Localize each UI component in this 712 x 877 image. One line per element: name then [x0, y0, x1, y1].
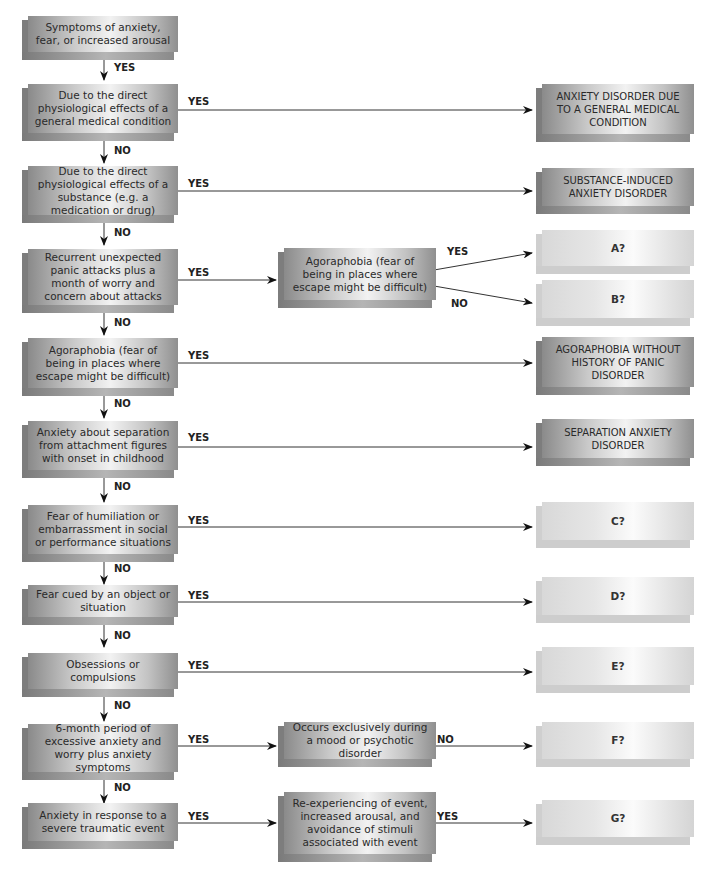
edge-label-yes: YES: [188, 178, 209, 189]
edge-label-yes: YES: [188, 660, 209, 671]
edge-label-yes: YES: [114, 62, 135, 73]
box-bottom: [536, 615, 690, 623]
box-bottom: [22, 617, 174, 625]
box-bottom: [22, 388, 174, 396]
outcome-text: E?: [542, 647, 694, 685]
outcome-text: D?: [542, 577, 694, 615]
outcome-separation-anxiety: SEPARATION ANXIETY DISORDER: [536, 419, 694, 466]
box-bottom: [22, 52, 174, 60]
decision-substance: Due to the direct physiological effects …: [22, 166, 178, 223]
decision-text: Fear cued by an object or situation: [28, 585, 178, 617]
outcome-d: D?: [536, 577, 694, 623]
outcome-text: SEPARATION ANXIETY DISORDER: [542, 419, 694, 458]
outcome-agoraphobia-no-panic: AGORAPHOBIA WITHOUT HISTORY OF PANIC DIS…: [536, 337, 694, 395]
box-bottom: [536, 759, 690, 767]
decision-text: Due to the direct physiological effects …: [28, 84, 178, 133]
box-bottom: [536, 266, 690, 274]
outcome-text: G?: [542, 800, 694, 837]
edge-label-no: NO: [114, 700, 131, 711]
decision-mood-psychotic: Occurs exclusively during a mood or psyc…: [278, 722, 436, 767]
edge-label-no: NO: [114, 782, 131, 793]
outcome-e: E?: [536, 647, 694, 693]
box-bottom: [278, 854, 432, 862]
edge-label-yes: YES: [188, 515, 209, 526]
decision-agoraphobia-with-panic: Agoraphobia (fear of being in places whe…: [278, 248, 436, 308]
box-bottom: [536, 837, 690, 845]
box-bottom: [22, 133, 174, 141]
decision-panic-attacks: Recurrent unexpected panic attacks plus …: [22, 249, 178, 313]
decision-text: Agoraphobia (fear of being in places whe…: [28, 338, 178, 388]
decision-text: Recurrent unexpected panic attacks plus …: [28, 249, 178, 305]
edge-label-no: NO: [114, 630, 131, 641]
outcome-text: AGORAPHOBIA WITHOUT HISTORY OF PANIC DIS…: [542, 337, 694, 387]
outcome-substance-induced: SUBSTANCE-INDUCED ANXIETY DISORDER: [536, 168, 694, 214]
decision-medical-condition: Due to the direct physiological effects …: [22, 84, 178, 141]
edge-label-yes: YES: [188, 350, 209, 361]
outcome-text: F?: [542, 722, 694, 759]
outcome-b: B?: [536, 280, 694, 326]
box-bottom: [278, 759, 432, 767]
outcome-medical-condition: ANXIETY DISORDER DUE TO A GENERAL MEDICA…: [536, 84, 694, 142]
decision-symptoms: Symptoms of anxiety, fear, or increased …: [22, 16, 178, 60]
edge-label-no: NO: [114, 563, 131, 574]
decision-6-month: 6-month period of excessive anxiety and …: [22, 724, 178, 780]
edge-label-yes: YES: [188, 590, 209, 601]
box-bottom: [22, 305, 174, 313]
box-bottom: [22, 841, 174, 849]
decision-text: Obsessions or compulsions: [28, 653, 178, 689]
box-bottom: [536, 134, 690, 142]
box-bottom: [536, 387, 690, 395]
edge-label-yes: YES: [188, 432, 209, 443]
edge-label-no: NO: [437, 734, 454, 745]
edge-label-yes: YES: [437, 811, 458, 822]
outcome-text: A?: [542, 230, 694, 266]
decision-text: Anxiety in response to a severe traumati…: [28, 803, 178, 841]
decision-humiliation: Fear of humiliation or embarrassment in …: [22, 505, 178, 562]
decision-separation: Anxiety about separation from attachment…: [22, 421, 178, 478]
decision-text: Due to the direct physiological effects …: [28, 166, 178, 215]
decision-agoraphobia: Agoraphobia (fear of being in places whe…: [22, 338, 178, 396]
decision-obsessions: Obsessions or compulsions: [22, 653, 178, 697]
edge-label-no: NO: [114, 481, 131, 492]
edge-label-no: NO: [451, 298, 468, 309]
outcome-text: ANXIETY DISORDER DUE TO A GENERAL MEDICA…: [542, 84, 694, 134]
box-bottom: [536, 540, 690, 548]
outcome-a: A?: [536, 230, 694, 274]
decision-text: Occurs exclusively during a mood or psyc…: [284, 722, 436, 759]
outcome-text: SUBSTANCE-INDUCED ANXIETY DISORDER: [542, 168, 694, 206]
outcome-text: C?: [542, 502, 694, 540]
edge-label-yes: YES: [447, 246, 468, 257]
box-bottom: [536, 458, 690, 466]
decision-text: Symptoms of anxiety, fear, or increased …: [28, 16, 178, 52]
decision-re-experiencing: Re-experiencing of event, increased arou…: [278, 792, 436, 862]
decision-text: Anxiety about separation from attachment…: [28, 421, 178, 470]
decision-text: Fear of humiliation or embarrassment in …: [28, 505, 178, 554]
box-bottom: [22, 554, 174, 562]
decision-text: 6-month period of excessive anxiety and …: [28, 724, 178, 772]
box-bottom: [22, 689, 174, 697]
outcome-c: C?: [536, 502, 694, 548]
edge-label-yes: YES: [188, 267, 209, 278]
box-bottom: [22, 470, 174, 478]
decision-text: Re-experiencing of event, increased arou…: [284, 792, 436, 854]
box-bottom: [536, 685, 690, 693]
decision-text: Agoraphobia (fear of being in places whe…: [284, 248, 436, 300]
edge-label-no: NO: [114, 398, 131, 409]
box-bottom: [536, 206, 690, 214]
outcome-g: G?: [536, 800, 694, 845]
box-bottom: [536, 318, 690, 326]
edge-label-yes: YES: [188, 811, 209, 822]
outcome-text: B?: [542, 280, 694, 318]
decision-fear-object: Fear cued by an object or situation: [22, 585, 178, 625]
box-bottom: [278, 300, 432, 308]
edge-label-yes: YES: [188, 96, 209, 107]
edge-label-no: NO: [114, 317, 131, 328]
edge-label-no: NO: [114, 227, 131, 238]
decision-traumatic-event: Anxiety in response to a severe traumati…: [22, 803, 178, 849]
edge-label-yes: YES: [188, 734, 209, 745]
outcome-f: F?: [536, 722, 694, 767]
edge-label-no: NO: [114, 145, 131, 156]
